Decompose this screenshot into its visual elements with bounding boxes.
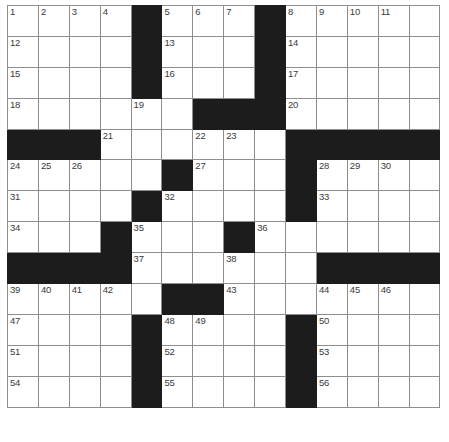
crossword-cell[interactable] bbox=[224, 160, 255, 191]
crossword-cell[interactable]: 17 bbox=[286, 67, 317, 98]
crossword-cell[interactable]: 6 bbox=[193, 6, 224, 37]
crossword-cell[interactable]: 15 bbox=[8, 67, 39, 98]
crossword-cell[interactable] bbox=[193, 67, 224, 98]
crossword-cell[interactable]: 1 bbox=[8, 6, 39, 37]
crossword-cell[interactable]: 8 bbox=[286, 6, 317, 37]
crossword-cell[interactable]: 40 bbox=[38, 284, 69, 315]
crossword-cell[interactable] bbox=[409, 222, 440, 253]
crossword-cell[interactable]: 13 bbox=[162, 36, 193, 67]
crossword-cell[interactable] bbox=[316, 36, 347, 67]
crossword-cell[interactable] bbox=[100, 67, 131, 98]
crossword-cell[interactable]: 9 bbox=[316, 6, 347, 37]
crossword-cell[interactable]: 5 bbox=[162, 6, 193, 37]
crossword-cell[interactable]: 46 bbox=[378, 284, 409, 315]
crossword-cell[interactable] bbox=[255, 345, 286, 376]
crossword-cell[interactable] bbox=[100, 160, 131, 191]
crossword-cell[interactable] bbox=[131, 160, 162, 191]
crossword-cell[interactable] bbox=[378, 36, 409, 67]
crossword-cell[interactable] bbox=[378, 376, 409, 407]
crossword-cell[interactable] bbox=[347, 345, 378, 376]
crossword-cell[interactable] bbox=[100, 191, 131, 222]
crossword-cell[interactable] bbox=[409, 98, 440, 129]
crossword-cell[interactable]: 32 bbox=[162, 191, 193, 222]
crossword-cell[interactable]: 22 bbox=[193, 129, 224, 160]
crossword-cell[interactable]: 30 bbox=[378, 160, 409, 191]
crossword-cell[interactable]: 18 bbox=[8, 98, 39, 129]
crossword-cell[interactable] bbox=[162, 253, 193, 284]
crossword-cell[interactable]: 51 bbox=[8, 345, 39, 376]
crossword-cell[interactable] bbox=[224, 36, 255, 67]
crossword-cell[interactable] bbox=[409, 67, 440, 98]
crossword-cell[interactable]: 45 bbox=[347, 284, 378, 315]
crossword-cell[interactable] bbox=[131, 129, 162, 160]
crossword-cell[interactable] bbox=[409, 345, 440, 376]
crossword-cell[interactable] bbox=[100, 98, 131, 129]
crossword-cell[interactable] bbox=[409, 284, 440, 315]
crossword-cell[interactable]: 19 bbox=[131, 98, 162, 129]
crossword-cell[interactable]: 3 bbox=[69, 6, 100, 37]
crossword-cell[interactable] bbox=[69, 376, 100, 407]
crossword-cell[interactable] bbox=[162, 222, 193, 253]
crossword-cell[interactable] bbox=[38, 191, 69, 222]
crossword-cell[interactable] bbox=[38, 376, 69, 407]
crossword-cell[interactable]: 16 bbox=[162, 67, 193, 98]
crossword-cell[interactable] bbox=[100, 345, 131, 376]
crossword-cell[interactable] bbox=[69, 36, 100, 67]
crossword-cell[interactable] bbox=[347, 314, 378, 345]
crossword-cell[interactable]: 39 bbox=[8, 284, 39, 315]
crossword-cell[interactable]: 54 bbox=[8, 376, 39, 407]
crossword-cell[interactable] bbox=[316, 98, 347, 129]
crossword-cell[interactable] bbox=[193, 253, 224, 284]
crossword-cell[interactable]: 42 bbox=[100, 284, 131, 315]
crossword-grid[interactable]: 1234567891011121314151617181920212223242… bbox=[7, 5, 440, 408]
crossword-cell[interactable] bbox=[38, 345, 69, 376]
crossword-cell[interactable] bbox=[38, 222, 69, 253]
crossword-cell[interactable] bbox=[347, 98, 378, 129]
crossword-cell[interactable] bbox=[286, 253, 317, 284]
crossword-cell[interactable] bbox=[347, 222, 378, 253]
crossword-cell[interactable] bbox=[38, 98, 69, 129]
crossword-cell[interactable]: 14 bbox=[286, 36, 317, 67]
crossword-cell[interactable] bbox=[255, 129, 286, 160]
crossword-cell[interactable] bbox=[100, 314, 131, 345]
crossword-cell[interactable] bbox=[224, 314, 255, 345]
crossword-cell[interactable] bbox=[255, 284, 286, 315]
crossword-cell[interactable] bbox=[193, 36, 224, 67]
crossword-cell[interactable] bbox=[378, 67, 409, 98]
crossword-cell[interactable]: 49 bbox=[193, 314, 224, 345]
crossword-cell[interactable] bbox=[69, 191, 100, 222]
crossword-cell[interactable]: 26 bbox=[69, 160, 100, 191]
crossword-cell[interactable] bbox=[316, 67, 347, 98]
crossword-cell[interactable] bbox=[347, 191, 378, 222]
crossword-cell[interactable] bbox=[69, 98, 100, 129]
crossword-cell[interactable]: 35 bbox=[131, 222, 162, 253]
crossword-cell[interactable]: 4 bbox=[100, 6, 131, 37]
crossword-cell[interactable] bbox=[378, 314, 409, 345]
crossword-cell[interactable] bbox=[193, 191, 224, 222]
crossword-cell[interactable]: 12 bbox=[8, 36, 39, 67]
crossword-cell[interactable] bbox=[162, 98, 193, 129]
crossword-cell[interactable] bbox=[409, 314, 440, 345]
crossword-cell[interactable]: 10 bbox=[347, 6, 378, 37]
crossword-cell[interactable] bbox=[255, 253, 286, 284]
crossword-cell[interactable] bbox=[38, 67, 69, 98]
crossword-cell[interactable]: 48 bbox=[162, 314, 193, 345]
crossword-cell[interactable] bbox=[409, 191, 440, 222]
crossword-cell[interactable]: 50 bbox=[316, 314, 347, 345]
crossword-cell[interactable] bbox=[409, 376, 440, 407]
crossword-cell[interactable]: 21 bbox=[100, 129, 131, 160]
crossword-cell[interactable] bbox=[255, 191, 286, 222]
crossword-cell[interactable] bbox=[378, 191, 409, 222]
crossword-cell[interactable] bbox=[224, 191, 255, 222]
crossword-cell[interactable]: 41 bbox=[69, 284, 100, 315]
crossword-cell[interactable]: 43 bbox=[224, 284, 255, 315]
crossword-cell[interactable] bbox=[347, 376, 378, 407]
crossword-cell[interactable] bbox=[224, 67, 255, 98]
crossword-cell[interactable] bbox=[255, 314, 286, 345]
crossword-cell[interactable]: 53 bbox=[316, 345, 347, 376]
crossword-cell[interactable] bbox=[69, 67, 100, 98]
crossword-cell[interactable]: 20 bbox=[286, 98, 317, 129]
crossword-cell[interactable]: 34 bbox=[8, 222, 39, 253]
crossword-cell[interactable] bbox=[38, 314, 69, 345]
crossword-cell[interactable]: 33 bbox=[316, 191, 347, 222]
